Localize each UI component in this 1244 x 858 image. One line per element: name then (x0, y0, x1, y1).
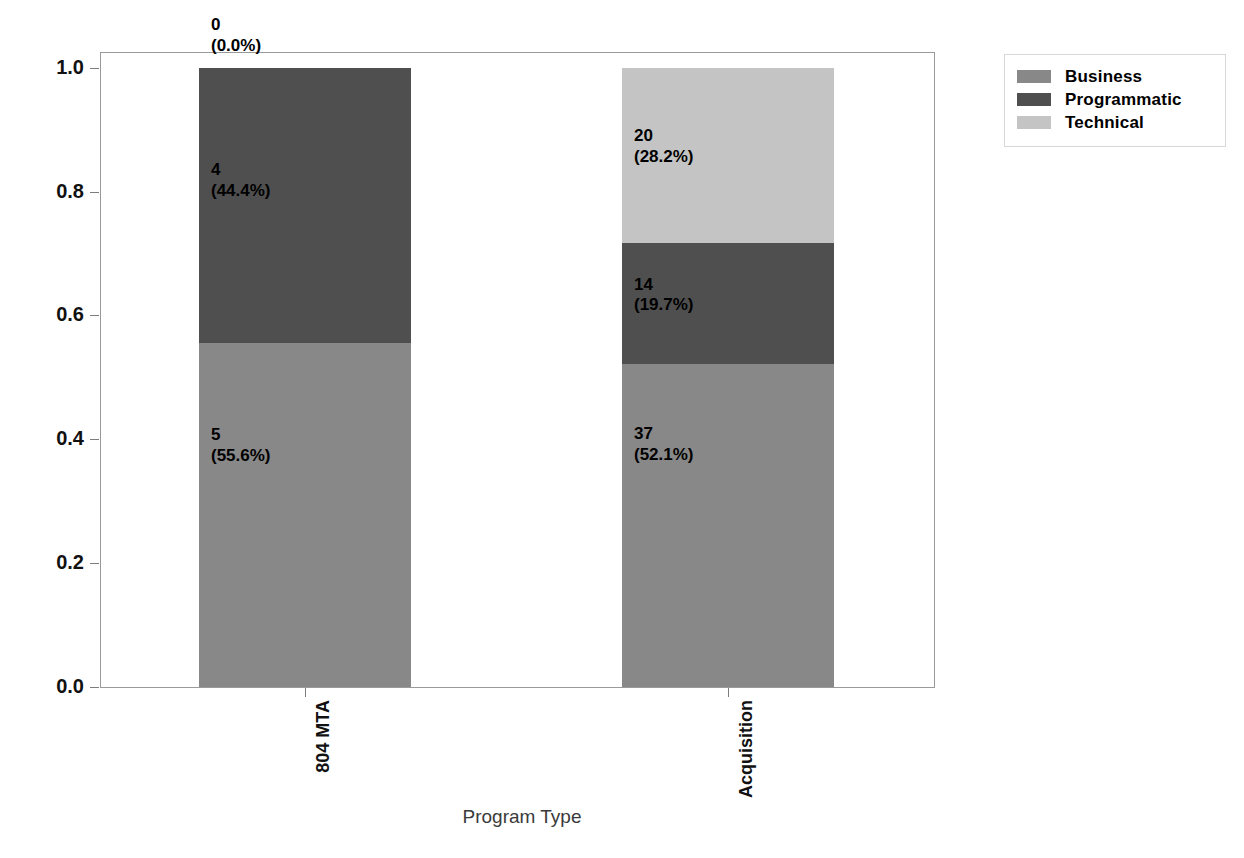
y-tick-label: 1.0 (56, 56, 84, 79)
y-tick-label: 0.0 (56, 675, 84, 698)
legend-label: Technical (1065, 113, 1144, 133)
bar-804-mta-segment-business[interactable]: 5 (55.6%) (199, 343, 411, 687)
plot-area: 4 (44.4%) 5 (55.6%) 0 (0.0%) 20 (28.2%) (100, 52, 935, 688)
y-tick-mark (90, 68, 99, 69)
bar-acquisition-segment-technical[interactable]: 20 (28.2%) (622, 68, 834, 243)
legend-swatch-icon (1017, 70, 1051, 83)
x-axis-title-text: Program Type (463, 806, 582, 828)
bar-804-mta-segment-programmatic[interactable]: 4 (44.4%) (199, 68, 411, 343)
segment-value-label: 37 (52.1%) (634, 424, 694, 465)
x-tick-mark-804-mta (305, 688, 306, 697)
legend: Business Programmatic Technical (1004, 54, 1226, 147)
y-axis: 1.0 0.8 0.6 0.4 0.2 0.0 (0, 0, 100, 858)
bar-804-mta-technical-zero-label: 0 (0.0%) (211, 15, 261, 56)
bar-acquisition-segment-programmatic[interactable]: 14 (19.7%) (622, 243, 834, 365)
y-tick-mark (90, 687, 99, 688)
segment-value-label: 4 (44.4%) (211, 160, 271, 201)
x-category-label-acquisition: Acquisition (736, 700, 757, 798)
y-tick-mark (90, 315, 99, 316)
y-tick-label: 0.8 (56, 180, 84, 203)
x-tick-mark-acquisition (728, 688, 729, 697)
segment-value-label: 14 (19.7%) (634, 275, 694, 316)
bar-acquisition-segment-business[interactable]: 37 (52.1%) (622, 364, 834, 687)
bar-804-mta[interactable]: 4 (44.4%) 5 (55.6%) (199, 68, 411, 687)
y-tick-label: 0.4 (56, 427, 84, 450)
segment-value-label: 20 (28.2%) (634, 126, 694, 167)
legend-item-technical[interactable]: Technical (1017, 111, 1215, 134)
y-tick-mark (90, 192, 99, 193)
legend-item-programmatic[interactable]: Programmatic (1017, 88, 1215, 111)
legend-label: Programmatic (1065, 90, 1182, 110)
y-tick-label: 0.6 (56, 303, 84, 326)
legend-swatch-icon (1017, 93, 1051, 106)
x-axis-title: Program Type (0, 806, 1244, 828)
bar-acquisition[interactable]: 20 (28.2%) 14 (19.7%) 37 (52.1%) (622, 68, 834, 687)
y-tick-mark (90, 563, 99, 564)
legend-swatch-icon (1017, 116, 1051, 129)
x-category-label-804-mta: 804 MTA (313, 700, 334, 773)
y-tick-mark (90, 439, 99, 440)
legend-label: Business (1065, 67, 1142, 87)
y-tick-label: 0.2 (56, 551, 84, 574)
segment-value-label: 5 (55.6%) (211, 425, 271, 466)
legend-item-business[interactable]: Business (1017, 65, 1215, 88)
